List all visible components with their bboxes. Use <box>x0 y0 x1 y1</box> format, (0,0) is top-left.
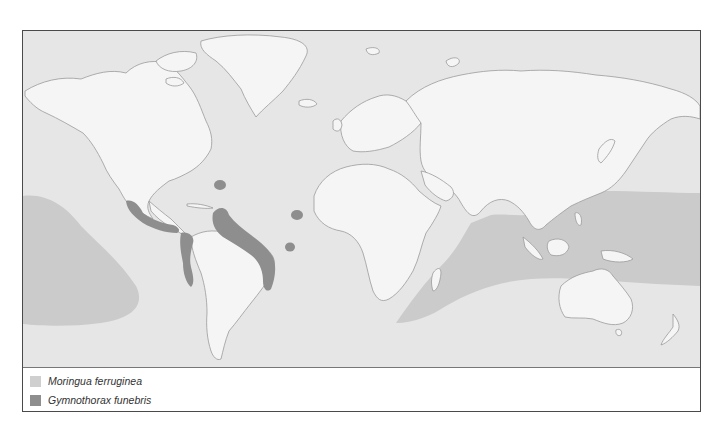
uk <box>333 119 342 131</box>
new-zealand <box>661 314 679 345</box>
legend-item-moringua: Moringua ferruginea <box>30 375 142 387</box>
legend-label: Gymnothorax funebris <box>48 394 151 406</box>
legend-swatch-dark-icon <box>30 395 41 406</box>
legend-label: Moringua ferruginea <box>48 375 142 387</box>
north-america <box>25 61 212 219</box>
arctic-islands <box>156 51 197 71</box>
world-map <box>23 31 700 368</box>
legend: Moringua ferruginea Gymnothorax funebris <box>23 368 700 411</box>
legend-swatch-light-icon <box>30 376 41 387</box>
greenland <box>201 35 308 117</box>
iceland <box>299 99 317 107</box>
legend-item-gymnothorax: Gymnothorax funebris <box>30 394 151 406</box>
world-map-svg <box>23 31 700 367</box>
africa <box>314 164 441 300</box>
map-figure: Moringua ferruginea Gymnothorax funebris <box>22 30 701 412</box>
tasmania <box>616 329 622 335</box>
cuba <box>187 204 213 209</box>
